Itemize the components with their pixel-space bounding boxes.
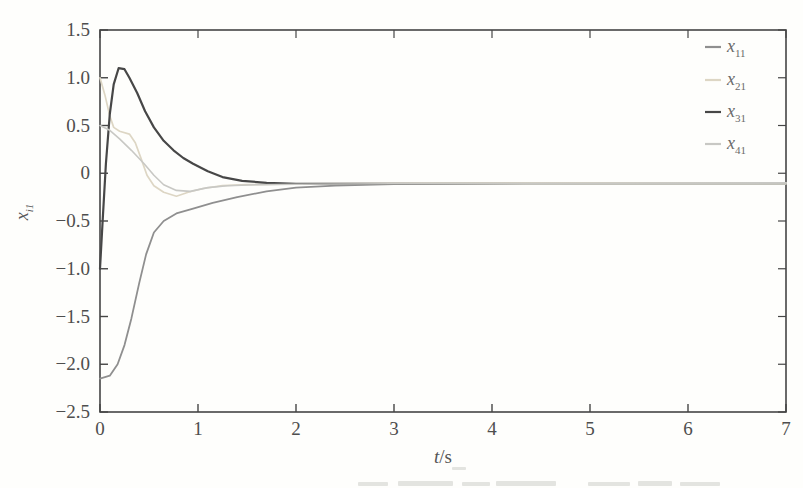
y-tick-label: 0 [81,162,91,183]
legend-label-x41: x41 [726,133,746,156]
line-chart: 012345671.51.00.50−0.5−1.0−1.5−2.0−2.5x1… [0,0,803,488]
x-tick-label: 1 [193,418,203,439]
x-axis-label: t/s [434,446,452,467]
series-x21-curve [100,78,786,196]
y-tick-label: −2.0 [56,353,90,374]
x-tick-label: 7 [781,418,791,439]
y-tick-label: −0.5 [56,210,90,231]
legend-label-x11: x11 [726,36,746,59]
y-tick-label: 1.0 [66,67,90,88]
state-trajectories-chart: 012345671.51.00.50−0.5−1.0−1.5−2.0−2.5x1… [0,0,803,488]
y-axis-label: xi1 [12,204,35,222]
cutoff-caption-smudge [588,482,630,486]
cutoff-caption-smudge [398,481,453,486]
y-tick-label: 0.5 [66,115,90,136]
y-tick-label: −1.0 [56,258,90,279]
cutoff-caption-smudge [680,482,720,486]
y-tick-label: −1.5 [56,306,90,327]
legend-label-x21: x21 [726,69,746,92]
x-tick-label: 2 [291,418,301,439]
x-tick-label: 3 [389,418,399,439]
y-tick-label: −2.5 [56,401,90,422]
x-tick-label: 0 [95,418,105,439]
legend-label-x31: x31 [726,101,746,124]
x-tick-label: 4 [487,418,497,439]
x-tick-label: 5 [585,418,595,439]
series-x11-curve [100,183,786,379]
figure-page: 012345671.51.00.50−0.5−1.0−1.5−2.0−2.5x1… [0,0,803,488]
axes-frame [100,30,786,412]
cutoff-caption-smudge [496,481,556,486]
x-tick-label: 6 [683,418,693,439]
series-x31-curve [100,68,786,269]
cutoff-caption-smudge [452,467,466,470]
cutoff-caption-smudge [358,482,388,486]
series-x41-curve [100,126,786,192]
cutoff-caption-smudge [638,481,672,486]
cutoff-caption-smudge [462,482,490,486]
y-tick-label: 1.5 [66,19,90,40]
